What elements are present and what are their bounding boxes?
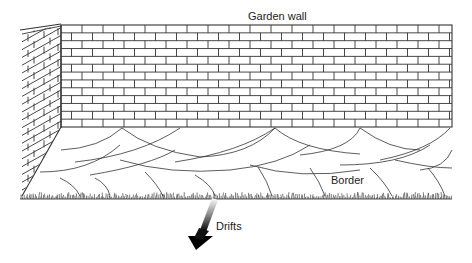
front-wall [61, 25, 452, 127]
drifts-label: Drifts [216, 220, 242, 232]
border-label: Border [331, 174, 364, 186]
garden-border-diagram: Garden wall Border Drifts [0, 0, 472, 263]
side-wall [20, 13, 61, 198]
border-drifts [40, 128, 452, 196]
drifts-arrow-icon [188, 198, 218, 250]
grass-edge [20, 192, 452, 199]
garden-wall-label: Garden wall [248, 10, 307, 22]
